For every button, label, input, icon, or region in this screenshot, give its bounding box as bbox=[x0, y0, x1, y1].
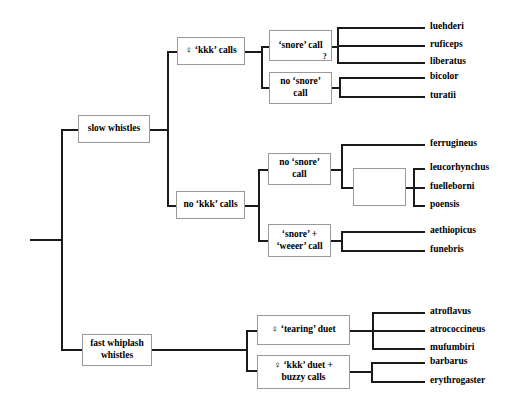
uncertainty-marker: ? bbox=[323, 53, 327, 61]
node-no-snore-call-top-label: no ‘snore’ call bbox=[280, 76, 321, 99]
leaf-line-mufumbiri bbox=[372, 348, 425, 350]
leaf-line-barbarus bbox=[371, 362, 425, 364]
node-no-kkk-calls[interactable]: no ‘kkk’ calls bbox=[176, 191, 245, 219]
edge-kkk-calls-out bbox=[245, 51, 262, 53]
node-kkk-duet-buzzy-calls-label: ♀ ‘kkk’ duet + buzzy calls bbox=[274, 360, 333, 383]
leaf-line-poensis bbox=[413, 205, 425, 207]
leaf-label-leucorhynchus: leucorhynchus bbox=[430, 163, 489, 173]
leaf-label-aethiopicus: aethiopicus bbox=[430, 226, 476, 236]
node-tearing-duet[interactable]: ♀ ‘tearing’ duet bbox=[257, 315, 350, 345]
kkk-calls-split-vertical bbox=[261, 47, 263, 89]
edge-root-to-slow-whistles bbox=[61, 129, 78, 131]
no-kkk-split-vertical bbox=[258, 170, 260, 242]
leaf-line-atroflavus bbox=[372, 312, 425, 314]
leaf-label-barbarus: barbarus bbox=[430, 357, 467, 367]
leaf-label-luehderi: luehderi bbox=[430, 22, 464, 32]
leaf-line-leucorhynchus bbox=[413, 168, 425, 170]
edge-kkk-duet-out bbox=[350, 371, 372, 373]
leaf-line-luehderi bbox=[337, 27, 425, 29]
snore-weeer-leaf-vertical bbox=[341, 232, 343, 252]
edge-fast-whiplash-out bbox=[152, 349, 247, 351]
root-split-vertical bbox=[61, 130, 63, 350]
edge-no-kkk-to-no-snore-mid bbox=[258, 169, 268, 171]
leaf-line-erythrogaster bbox=[371, 381, 425, 383]
leaf-line-fuelleborni bbox=[413, 187, 425, 189]
leaf-label-atroflavus: atroflavus bbox=[430, 307, 471, 317]
edge-tearing-duet-out bbox=[350, 330, 373, 332]
node-no-snore-call-mid[interactable]: no ‘snore’ call bbox=[268, 153, 331, 185]
edge-slow-to-kkk-calls bbox=[167, 51, 177, 53]
edge-kkk-to-no-snore-call bbox=[261, 87, 269, 89]
leaf-label-mufumbiri: mufumbiri bbox=[430, 343, 474, 353]
leaf-label-ferrugineus: ferrugineus bbox=[430, 139, 477, 149]
node-snore-weeer-call[interactable]: ‘snore’ + ‘weeer’ call bbox=[268, 224, 331, 257]
leaf-label-bicolor: bicolor bbox=[430, 72, 459, 82]
node-fast-whiplash-whistles-label: fast whiplash whistles bbox=[90, 338, 144, 361]
edge-kkk-to-snore-call bbox=[261, 46, 269, 48]
node-kkk-duet-buzzy-calls[interactable]: ♀ ‘kkk’ duet + buzzy calls bbox=[257, 355, 350, 389]
leaf-line-funebris bbox=[341, 250, 425, 252]
no-snore-top-leaf-vertical bbox=[339, 78, 341, 98]
node-snore-weeer-call-label: ‘snore’ + ‘weeer’ call bbox=[276, 229, 322, 252]
leaf-label-atrococcineus: atrococcineus bbox=[430, 325, 485, 335]
leaf-label-fuelleborni: fuelleborni bbox=[430, 182, 474, 192]
node-no-snore-call-top[interactable]: no ‘snore’ call bbox=[269, 72, 332, 104]
leaf-label-poensis: poensis bbox=[430, 200, 460, 210]
leaf-line-bicolor bbox=[339, 77, 425, 79]
leaf-label-ruficeps: ruficeps bbox=[430, 40, 463, 50]
edge-to-ferrugineus bbox=[341, 144, 425, 146]
node-fast-whiplash-whistles[interactable]: fast whiplash whistles bbox=[82, 334, 152, 366]
node-snore-call-label: ‘snore’ call bbox=[278, 40, 322, 52]
edge-no-kkk-to-snore-weeer bbox=[258, 240, 268, 242]
edge-no-kkk-calls-out bbox=[245, 205, 259, 207]
node-slow-whistles[interactable]: slow whistles bbox=[78, 115, 150, 143]
node-no-kkk-calls-label: no ‘kkk’ calls bbox=[183, 199, 237, 211]
node-unlabeled-clade[interactable] bbox=[353, 168, 406, 206]
cladogram-diagram: slow whistles ♀ ‘kkk’ calls ‘snore’ call… bbox=[0, 0, 516, 410]
leaf-label-erythrogaster: erythrogaster bbox=[430, 376, 485, 386]
slow-whistles-split-vertical bbox=[167, 52, 169, 207]
node-kkk-calls[interactable]: ♀ ‘kkk’ calls bbox=[177, 37, 245, 65]
edge-slow-to-no-kkk-calls bbox=[167, 205, 176, 207]
root-stem-edge bbox=[30, 239, 62, 241]
leaf-line-liberatus bbox=[337, 62, 425, 64]
node-no-snore-call-mid-label: no ‘snore’ call bbox=[279, 157, 320, 180]
node-tearing-duet-label: ♀ ‘tearing’ duet bbox=[271, 324, 335, 336]
node-kkk-calls-label: ♀ ‘kkk’ calls bbox=[185, 45, 236, 57]
leaf-line-ruficeps bbox=[337, 45, 425, 47]
node-slow-whistles-label: slow whistles bbox=[88, 123, 141, 135]
edge-root-to-fast-whiplash bbox=[61, 349, 82, 351]
leaf-line-aethiopicus bbox=[341, 231, 425, 233]
leaf-line-turatii bbox=[339, 96, 425, 98]
leaf-label-liberatus: liberatus bbox=[430, 57, 466, 67]
fast-whiplash-split-vertical bbox=[246, 331, 248, 372]
kkk-duet-leaf-vertical bbox=[371, 363, 373, 383]
no-snore-mid-split-vertical bbox=[341, 145, 343, 189]
leaf-label-turatii: turatii bbox=[430, 91, 456, 101]
leaf-label-funebris: funebris bbox=[430, 245, 464, 255]
leaf-line-atrococcineus bbox=[372, 330, 425, 332]
edge-slow-whistles-out bbox=[150, 129, 168, 131]
